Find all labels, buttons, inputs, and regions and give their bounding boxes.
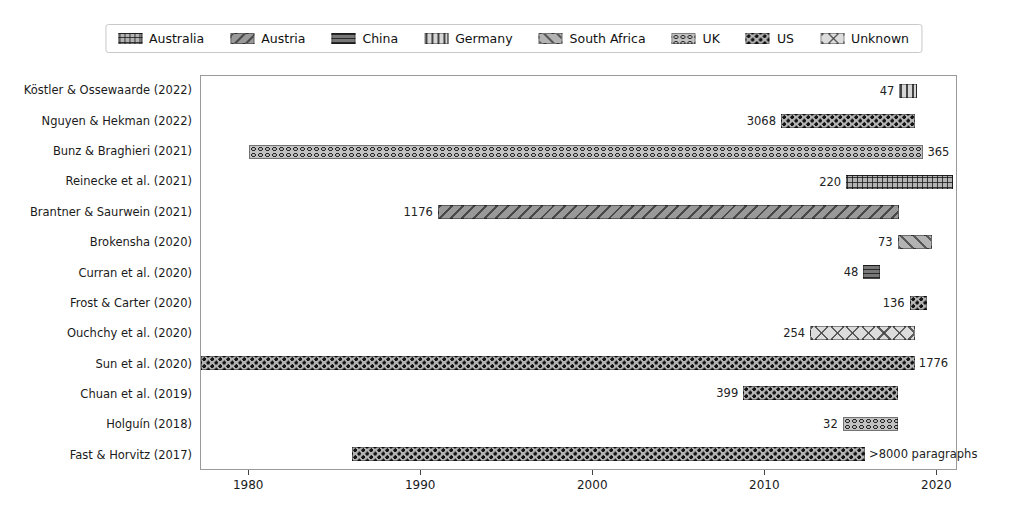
bar-row-bunz-braghieri-2021: 365 <box>201 136 956 166</box>
legend: AustraliaAustriaChinaGermanySouth Africa… <box>105 24 922 53</box>
study-bar-k-stler-ossewaarde-2022 <box>899 84 916 98</box>
bar-row-nguyen-hekman-2022: 3068 <box>201 106 956 136</box>
legend-item-uk: UK <box>672 31 720 46</box>
y-tick-label-frost-carter-2020: Frost & Carter (2020) <box>0 296 192 310</box>
y-tick-label-brokensha-2020: Brokensha (2020) <box>0 235 192 249</box>
legend-swatch-icon <box>746 33 770 44</box>
legend-item-us: US <box>746 31 794 46</box>
y-tick-label-k-stler-ossewaarde-2022: Köstler & Ossewaarde (2022) <box>0 83 192 97</box>
study-bar-nguyen-hekman-2022 <box>781 114 915 128</box>
y-tick-label-fast-horvitz-2017: Fast & Horvitz (2017) <box>0 448 192 462</box>
bar-row-ouchchy-et-al-2020: 254 <box>201 318 956 348</box>
legend-label: Germany <box>455 31 512 46</box>
x-tick-label: 2020 <box>921 478 952 492</box>
y-tick-label-chuan-et-al-2019: Chuan et al. (2019) <box>0 387 192 401</box>
x-tick-label: 1980 <box>233 478 264 492</box>
study-bar-brantner-saurwein-2021 <box>438 205 900 219</box>
legend-item-germany: Germany <box>424 31 512 46</box>
study-bar-sun-et-al-2020 <box>201 356 915 370</box>
bar-row-curran-et-al-2020: 48 <box>201 257 956 287</box>
y-axis-labels: Köstler & Ossewaarde (2022)Nguyen & Hekm… <box>0 75 192 470</box>
study-bar-holgu-n-2018 <box>843 417 898 431</box>
chart-figure: AustraliaAustriaChinaGermanySouth Africa… <box>0 0 1027 518</box>
legend-item-austria: Austria <box>230 31 305 46</box>
count-label: >8000 paragraphs <box>869 447 977 461</box>
legend-item-south-africa: South Africa <box>539 31 646 46</box>
legend-swatch-icon <box>230 33 254 44</box>
study-bar-bunz-braghieri-2021 <box>249 145 923 159</box>
y-tick-label-bunz-braghieri-2021: Bunz & Braghieri (2021) <box>0 144 192 158</box>
study-bar-frost-carter-2020 <box>910 296 927 310</box>
legend-swatch-icon <box>331 33 355 44</box>
bar-row-sun-et-al-2020: 1776 <box>201 348 956 378</box>
legend-label: Unknown <box>851 31 909 46</box>
count-label: 48 <box>844 265 859 279</box>
bar-row-brokensha-2020: 73 <box>201 227 956 257</box>
legend-item-china: China <box>331 31 398 46</box>
count-label: 254 <box>783 326 805 340</box>
x-tick-mark <box>936 470 937 475</box>
x-axis: 19801990200020102020 <box>200 470 957 500</box>
count-label: 3068 <box>747 114 776 128</box>
count-label: 1176 <box>404 205 433 219</box>
y-tick-label-sun-et-al-2020: Sun et al. (2020) <box>0 357 192 371</box>
x-tick-mark <box>592 470 593 475</box>
study-bar-ouchchy-et-al-2020 <box>810 326 915 340</box>
study-bar-fast-horvitz-2017 <box>352 447 865 461</box>
legend-label: South Africa <box>570 31 646 46</box>
study-bar-curran-et-al-2020 <box>863 265 880 279</box>
x-tick-label: 1990 <box>405 478 436 492</box>
y-tick-label-brantner-saurwein-2021: Brantner & Saurwein (2021) <box>0 205 192 219</box>
y-tick-label-nguyen-hekman-2022: Nguyen & Hekman (2022) <box>0 114 192 128</box>
study-bar-brokensha-2020 <box>898 235 932 249</box>
study-bar-reinecke-et-al-2021 <box>846 175 952 189</box>
bar-row-frost-carter-2020: 136 <box>201 288 956 318</box>
legend-swatch-icon <box>118 33 142 44</box>
x-tick-label: 2010 <box>749 478 780 492</box>
count-label: 1776 <box>919 356 948 370</box>
legend-item-australia: Australia <box>118 31 204 46</box>
x-tick-mark <box>420 470 421 475</box>
x-tick-label: 2000 <box>577 478 608 492</box>
bar-row-reinecke-et-al-2021: 220 <box>201 167 956 197</box>
bar-row-holgu-n-2018: 32 <box>201 409 956 439</box>
legend-label: US <box>777 31 794 46</box>
bar-row-k-stler-ossewaarde-2022: 47 <box>201 76 956 106</box>
y-tick-label-holgu-n-2018: Holguín (2018) <box>0 417 192 431</box>
legend-swatch-icon <box>424 33 448 44</box>
y-tick-label-reinecke-et-al-2021: Reinecke et al. (2021) <box>0 174 192 188</box>
y-tick-label-ouchchy-et-al-2020: Ouchchy et al. (2020) <box>0 326 192 340</box>
count-label: 32 <box>823 417 838 431</box>
bar-row-fast-horvitz-2017: >8000 paragraphs <box>201 439 956 469</box>
count-label: 399 <box>716 386 738 400</box>
legend-label: Australia <box>149 31 204 46</box>
legend-item-unknown: Unknown <box>820 31 909 46</box>
count-label: 47 <box>880 84 895 98</box>
x-tick-mark <box>764 470 765 475</box>
count-label: 220 <box>819 175 841 189</box>
legend-label: China <box>362 31 398 46</box>
x-tick-mark <box>248 470 249 475</box>
count-label: 136 <box>883 296 905 310</box>
legend-swatch-icon <box>672 33 696 44</box>
legend-swatch-icon <box>820 33 844 44</box>
bar-row-brantner-saurwein-2021: 1176 <box>201 197 956 227</box>
y-tick-label-curran-et-al-2020: Curran et al. (2020) <box>0 266 192 280</box>
plot-area: 47306836522011767348136254177639932>8000… <box>200 75 957 470</box>
legend-label: UK <box>703 31 720 46</box>
legend-swatch-icon <box>539 33 563 44</box>
legend-label: Austria <box>261 31 305 46</box>
count-label: 365 <box>927 145 949 159</box>
bar-row-chuan-et-al-2019: 399 <box>201 378 956 408</box>
study-bar-chuan-et-al-2019 <box>743 386 897 400</box>
count-label: 73 <box>878 235 893 249</box>
